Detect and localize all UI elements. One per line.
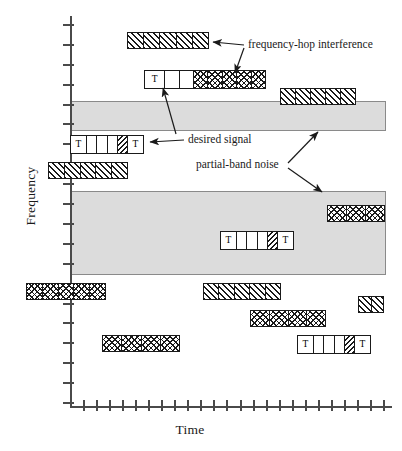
y-axis-label: Frequency [23,141,39,251]
callout-desired-signal: desired signal [188,133,252,145]
callout-frequency-hop-interference: frequency-hop interference [248,38,373,50]
callout-partial-band-noise: partial-band noise [196,158,279,170]
frequency-hop-diagram: TTTTTTT frequency-hop interference desir… [0,0,402,451]
annotation-arrows [0,0,402,451]
x-axis-label: Time [130,422,250,438]
